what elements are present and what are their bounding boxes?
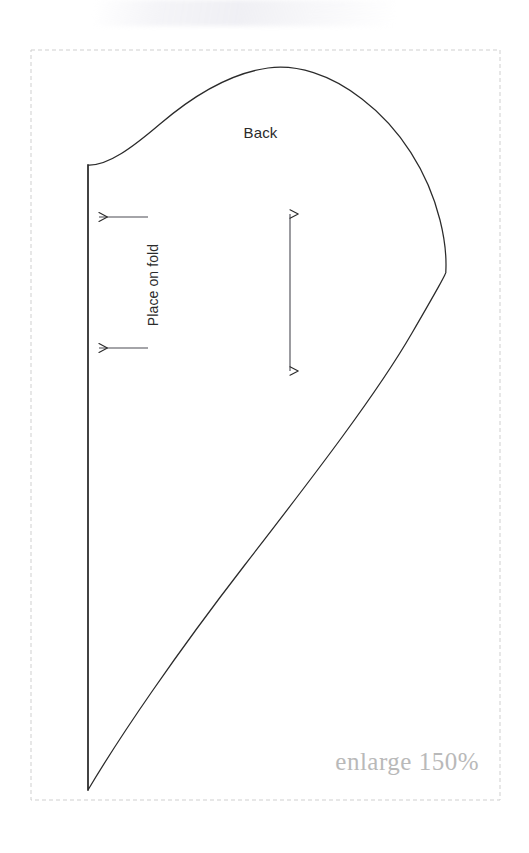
piece-label-back-text: Back (243, 124, 277, 141)
pattern-sheet: Back Place on fold enlarge 150% (0, 0, 529, 853)
pattern-piece-outline (88, 67, 446, 790)
enlarge-note: enlarge 150% (335, 748, 479, 776)
piece-label-back: Back (0, 124, 529, 141)
place-on-fold-label: Place on fold (145, 244, 161, 326)
